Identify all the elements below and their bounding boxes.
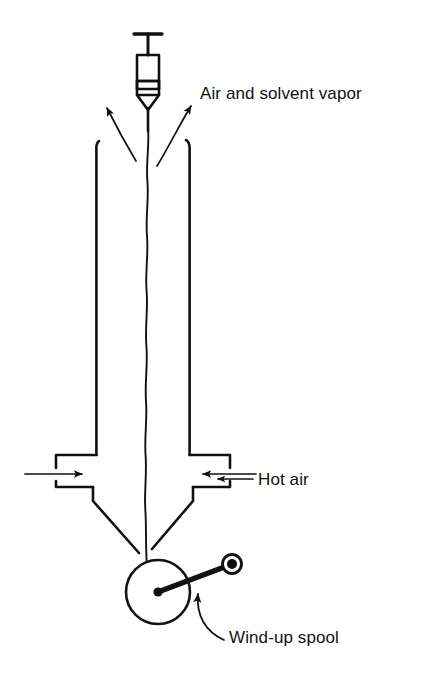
- syringe-spinneret: [134, 34, 162, 131]
- label-air-and-solvent-vapor: Air and solvent vapor: [200, 85, 362, 104]
- wind-up-spool: [126, 555, 242, 625]
- vapor-arrow-right: [157, 106, 191, 166]
- label-hot-air: Hot air: [258, 471, 309, 490]
- label-wind-up-spool: Wind-up spool: [229, 629, 339, 648]
- wind-up-spool-label-arrow: [198, 594, 224, 640]
- vapor-arrow-left: [107, 108, 136, 161]
- polymer-filament: [145, 128, 148, 572]
- diagram-root: Air and solvent vapor Hot air Wind-up sp…: [0, 0, 429, 684]
- drying-column: [56, 140, 230, 553]
